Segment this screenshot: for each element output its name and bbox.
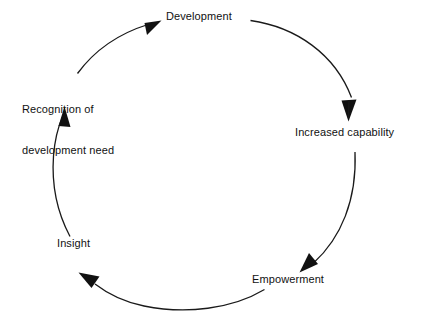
node-label-recognition-line-1: Recognition of xyxy=(22,103,114,117)
node-label-recognition-of-development-need: Recognition of development need xyxy=(22,76,114,184)
arrowhead-empowerment xyxy=(300,253,319,273)
arrowhead-development xyxy=(145,21,162,36)
node-label-increased-capability: Increased capability xyxy=(295,126,394,140)
node-label-insight: Insight xyxy=(57,237,90,251)
arrow-recognition-to-development xyxy=(78,21,162,74)
node-label-development: Development xyxy=(166,10,232,24)
arrow-empowerment-to-insight xyxy=(79,273,265,310)
arc-increased-capability-to-empowerment xyxy=(314,152,356,263)
diagram-canvas: Development Increased capability Empower… xyxy=(0,0,430,329)
arrow-increased-capability-to-empowerment xyxy=(300,152,356,273)
arrow-development-to-increased-capability xyxy=(251,21,357,122)
arc-development-to-increased-capability xyxy=(251,21,352,98)
arc-empowerment-to-insight xyxy=(95,284,265,310)
node-label-empowerment: Empowerment xyxy=(252,273,324,287)
node-label-recognition-line-2: development need xyxy=(22,144,114,158)
arc-recognition-to-development xyxy=(78,25,149,74)
